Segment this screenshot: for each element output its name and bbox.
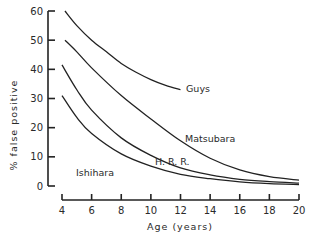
y-axis-title: % false positive [8, 80, 19, 171]
x-axis: 468101214161820 [59, 194, 306, 216]
y-tick-label: 0 [37, 181, 43, 192]
series-curve-guys [65, 11, 181, 90]
y-tick-label: 40 [30, 64, 43, 75]
x-tick-label: 4 [59, 205, 65, 216]
line-chart: 0102030405060 468101214161820 Guys Matsu… [0, 0, 311, 239]
x-tick-label: 12 [174, 205, 187, 216]
y-tick-label: 20 [30, 122, 43, 133]
y-tick-label: 30 [30, 93, 43, 104]
series-label-matsubara: Matsubara [185, 133, 235, 144]
x-tick-label: 6 [88, 205, 94, 216]
y-tick-label: 50 [30, 35, 43, 46]
x-tick-label: 20 [293, 205, 306, 216]
y-tick-label: 60 [30, 6, 43, 17]
series-label-guys: Guys [186, 83, 210, 94]
x-tick-label: 10 [145, 205, 158, 216]
x-axis-title: Age (years) [147, 221, 213, 232]
x-tick-label: 14 [204, 205, 217, 216]
x-tick-label: 8 [118, 205, 124, 216]
series-label-hrr: H. R. R. [155, 156, 190, 167]
x-tick-label: 16 [233, 205, 246, 216]
y-axis: 0102030405060 [30, 6, 55, 192]
x-tick-label: 18 [263, 205, 276, 216]
y-tick-label: 10 [30, 151, 43, 162]
series-label-ishihara: Ishihara [76, 167, 114, 178]
